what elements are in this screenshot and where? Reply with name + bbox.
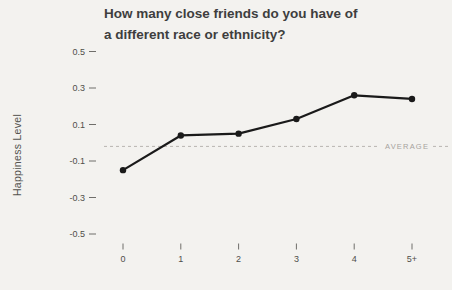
x-tick-label: 1: [178, 254, 183, 264]
x-tick-label: 4: [352, 254, 357, 264]
y-tick-label: -0.5: [69, 229, 85, 239]
y-tick-label: -0.1: [69, 156, 85, 166]
x-tick-label: 2: [236, 254, 241, 264]
chart-canvas: How many close friends do you have of a …: [0, 0, 452, 290]
y-tick-label: 0.3: [72, 83, 85, 93]
data-point-1: [178, 132, 184, 138]
data-point-2: [235, 130, 241, 136]
data-point-5+: [409, 96, 415, 102]
data-point-0: [120, 167, 126, 173]
x-tick-label: 3: [294, 254, 299, 264]
y-tick-label: 0.5: [72, 47, 85, 57]
y-tick-label: -0.3: [69, 193, 85, 203]
x-tick-label: 0: [120, 254, 125, 264]
line-chart: 0.50.30.1-0.1-0.3-0.5012345+AVERAGE: [0, 0, 452, 290]
trend-line: [123, 95, 412, 170]
x-tick-label: 5+: [407, 254, 417, 264]
y-tick-label: 0.1: [72, 120, 85, 130]
average-label: AVERAGE: [385, 142, 429, 151]
data-point-3: [293, 116, 299, 122]
data-point-4: [351, 92, 357, 98]
